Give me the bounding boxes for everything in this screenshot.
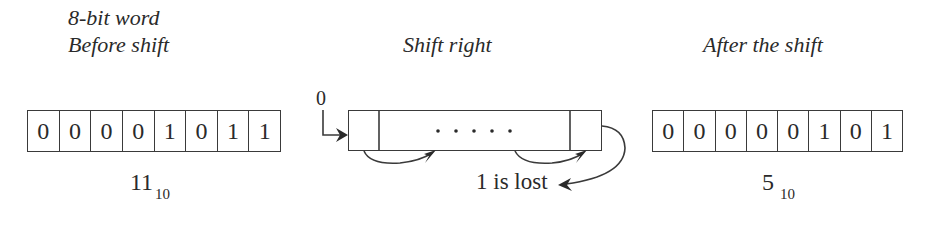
bit-cell: 0 bbox=[778, 111, 809, 151]
shift-arrow-curve-1 bbox=[364, 151, 432, 163]
lost-arrowhead bbox=[558, 178, 572, 191]
bit-cell: 1 bbox=[872, 111, 902, 151]
after-register: 0 0 0 0 0 1 0 1 bbox=[652, 110, 903, 152]
after-decimal-value: 510 bbox=[762, 170, 795, 206]
lost-bit-loop bbox=[566, 126, 625, 184]
ellipsis-dot bbox=[490, 129, 494, 133]
shift-arrow-curve-2 bbox=[515, 151, 583, 163]
ellipsis-dot bbox=[454, 129, 458, 133]
ellipsis-dot bbox=[508, 129, 512, 133]
bit-cell: 0 bbox=[747, 111, 778, 151]
ellipsis-dot bbox=[472, 129, 476, 133]
ellipsis-dot bbox=[436, 129, 440, 133]
bit-cell: 0 bbox=[716, 111, 747, 151]
after-value-base: 10 bbox=[780, 186, 795, 202]
after-value-number: 5 bbox=[762, 169, 774, 195]
after-caption: After the shift bbox=[703, 33, 823, 57]
bit-cell: 0 bbox=[841, 111, 872, 151]
bit-cell: 1 bbox=[809, 111, 840, 151]
input-arrow-line bbox=[323, 110, 345, 135]
bit-cell: 0 bbox=[653, 111, 684, 151]
bit-cell: 0 bbox=[684, 111, 715, 151]
